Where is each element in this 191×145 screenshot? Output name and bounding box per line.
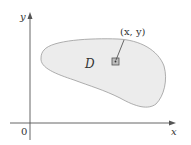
region-diagram: D (x, y) x y 0 (0, 0, 191, 145)
x-axis-arrow-icon (169, 121, 176, 126)
y-axis-arrow-icon (28, 12, 33, 19)
point-dot (115, 61, 117, 63)
y-axis-label: y (19, 11, 26, 22)
x-axis-label: x (171, 126, 177, 137)
region-label: D (84, 57, 95, 71)
origin-label: 0 (21, 126, 27, 137)
region-d (41, 39, 166, 107)
point-label: (x, y) (120, 26, 146, 37)
